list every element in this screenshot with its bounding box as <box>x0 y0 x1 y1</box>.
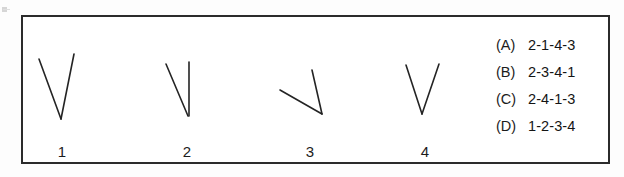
figure-3-shape <box>280 70 322 114</box>
option-c-text: 2-4-1-3 <box>528 91 575 107</box>
page-canvas: 1 2 3 4 (A) 2-1-4-3 (B) 2-3-4-1 (C) 2-4-… <box>0 0 624 177</box>
option-b-tag: (B) <box>496 64 528 80</box>
answer-option-d[interactable]: (D) 1-2-3-4 <box>496 118 606 145</box>
option-c-tag: (C) <box>496 91 528 107</box>
option-d-text: 1-2-3-4 <box>528 118 575 134</box>
figure-4-shape <box>406 64 439 114</box>
figure-label-4: 4 <box>413 143 437 160</box>
figure-label-2: 2 <box>175 143 199 160</box>
question-frame: 1 2 3 4 (A) 2-1-4-3 (B) 2-3-4-1 (C) 2-4-… <box>21 15 610 164</box>
answer-option-b[interactable]: (B) 2-3-4-1 <box>496 64 606 91</box>
option-d-tag: (D) <box>496 118 528 134</box>
figures-drawing <box>23 17 493 162</box>
answer-option-c[interactable]: (C) 2-4-1-3 <box>496 91 606 118</box>
figure-1-shape <box>39 54 74 119</box>
option-b-text: 2-3-4-1 <box>528 64 575 80</box>
figure-label-1: 1 <box>50 143 74 160</box>
figures-group: 1 2 3 4 <box>23 17 493 162</box>
option-a-tag: (A) <box>496 37 528 53</box>
option-a-text: 2-1-4-3 <box>528 37 575 53</box>
figure-2-shape <box>166 62 189 116</box>
answer-options-list: (A) 2-1-4-3 (B) 2-3-4-1 (C) 2-4-1-3 (D) … <box>496 37 606 145</box>
answer-option-a[interactable]: (A) 2-1-4-3 <box>496 37 606 64</box>
figure-label-3: 3 <box>298 143 322 160</box>
scan-artifact-speck <box>2 7 7 12</box>
